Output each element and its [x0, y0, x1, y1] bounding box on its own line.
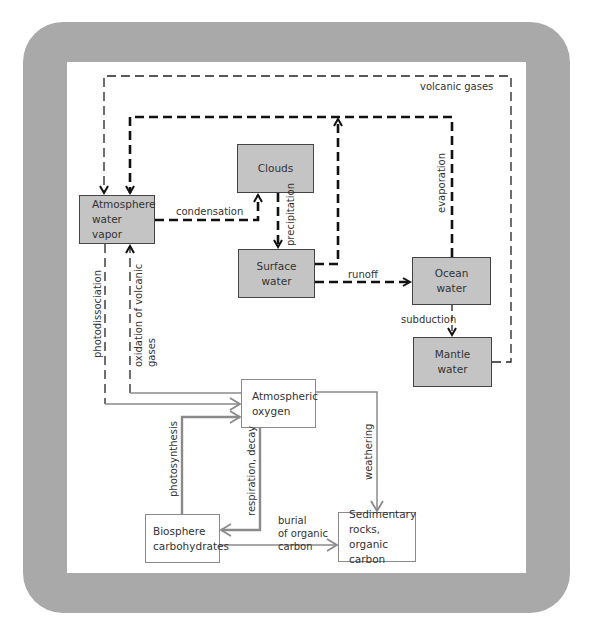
label-oxidation-line1: oxidation of volcanic — [133, 264, 145, 367]
photodissociation-flow — [105, 244, 240, 404]
node-label: Surface water — [256, 259, 296, 289]
oxidation-flow — [130, 246, 241, 393]
label-subduction: subduction — [401, 314, 456, 326]
node-label: Clouds — [258, 161, 293, 176]
label-burial-line3: carbon — [278, 541, 313, 553]
node-label: Biosphere carbohydrates — [153, 524, 229, 554]
label-weathering: weathering — [363, 424, 375, 480]
label-evaporation: evaporation — [436, 153, 448, 213]
label-runoff: runoff — [348, 269, 378, 281]
photosynthesis-flow — [182, 417, 240, 514]
node-mantle-water: Mantle water — [413, 337, 492, 387]
node-atmosphere-water-vapor: Atmosphere water vapor — [79, 195, 155, 244]
node-clouds: Clouds — [237, 144, 314, 193]
node-label: Sedimentary rocks, organic carbon — [349, 507, 416, 567]
node-label: Mantle water — [435, 347, 471, 377]
node-sedimentary-rocks: Sedimentary rocks, organic carbon — [338, 512, 416, 562]
label-precipitation: precipitation — [285, 183, 297, 246]
label-burial-line2: of organic — [278, 528, 328, 540]
label-oxidation-line2: gases — [146, 338, 158, 367]
node-label: Ocean water — [435, 266, 469, 296]
node-atmospheric-oxygen: Atmospheric oxygen — [241, 379, 316, 428]
node-label: Atmosphere water vapor — [92, 197, 156, 242]
surface-evaporation-flow — [315, 119, 338, 264]
label-photosynthesis: photosynthesis — [168, 421, 180, 497]
node-surface-water: Surface water — [238, 249, 315, 298]
node-ocean-water: Ocean water — [412, 257, 491, 305]
label-photodissociation: photodissociation — [92, 270, 104, 358]
label-volcanic-gases: volcanic gases — [420, 81, 493, 93]
label-respiration-decay: respiration, decay — [246, 426, 258, 516]
label-burial-line1: burial — [278, 515, 306, 527]
node-label: Atmospheric oxygen — [252, 389, 318, 419]
label-condensation: condensation — [176, 206, 243, 218]
node-biosphere-carbohydrates: Biosphere carbohydrates — [145, 514, 220, 563]
